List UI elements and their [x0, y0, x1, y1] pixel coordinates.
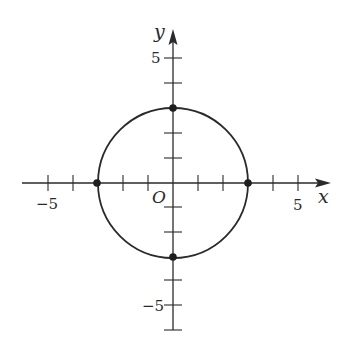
point-y-intercept-top [169, 104, 177, 112]
point-x-intercept-right [244, 179, 252, 187]
point-y-intercept-bottom [169, 253, 177, 261]
point-x-intercept-left [93, 179, 101, 187]
y-axis-label: y [153, 20, 165, 42]
y-tick-label-pos5: 5 [151, 49, 161, 67]
x-tick-label-neg5: −5 [36, 195, 58, 213]
y-tick-label-neg5: −5 [142, 297, 164, 315]
x-tick-label-pos5: 5 [293, 196, 303, 214]
x-axis-label: x [318, 185, 329, 207]
origin-label: O [152, 187, 166, 207]
coordinate-plane: y x O −5 5 5 −5 [0, 0, 349, 355]
